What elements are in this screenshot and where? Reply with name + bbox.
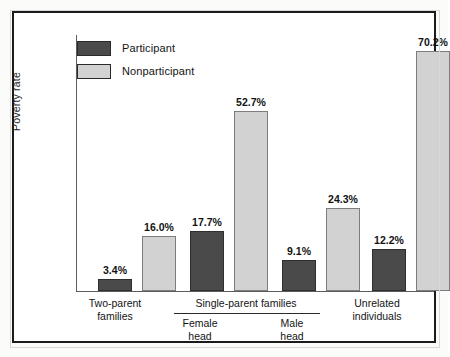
bar-nonparticipant-two-parent[interactable] — [142, 236, 176, 291]
plot-area: 3.4% 16.0% 17.7% 52.7% 9.1% 2 — [76, 35, 434, 291]
bar-wrap-24-3: 24.3% — [326, 35, 360, 291]
bar-label-12-2: 12.2% — [374, 234, 404, 246]
bar-wrap-9-1: 9.1% — [282, 35, 316, 291]
bar-label-70-2: 70.2% — [418, 36, 448, 48]
bar-wrap-52-7: 52.7% — [234, 35, 268, 291]
bar-participant-male-head[interactable] — [282, 260, 316, 291]
chart-frame: Poverty rate Participant Nonparticipant … — [12, 11, 436, 343]
xlabel-unrelated: Unrelated individuals — [322, 297, 432, 323]
bar-wrap-12-2: 12.2% — [372, 35, 406, 291]
xlabel-single-parent-text: Single-parent families — [166, 297, 326, 310]
bar-wrap-16-0: 16.0% — [142, 35, 176, 291]
bar-label-24-3: 24.3% — [328, 193, 358, 205]
single-parent-group-rule — [174, 313, 320, 314]
xlabel-female-head-line2: head — [160, 330, 240, 343]
xlabel-two-parent-line1: Two-parent — [60, 297, 170, 310]
bar-participant-female-head[interactable] — [190, 231, 224, 291]
x-axis-line — [76, 291, 434, 292]
bar-label-3-4: 3.4% — [103, 264, 127, 276]
bar-nonparticipant-male-head[interactable] — [326, 208, 360, 291]
bar-label-16-0: 16.0% — [144, 221, 174, 233]
bar-label-17-7: 17.7% — [192, 216, 222, 228]
bar-nonparticipant-female-head[interactable] — [234, 111, 268, 291]
bar-label-9-1: 9.1% — [287, 245, 311, 257]
xlabel-female-head: Female head — [160, 317, 240, 343]
bar-participant-unrelated[interactable] — [372, 249, 406, 291]
xlabel-two-parent-line2: families — [60, 310, 170, 323]
xlabel-two-parent: Two-parent families — [60, 297, 170, 323]
xlabel-male-head-line2: head — [252, 330, 332, 343]
xlabel-female-head-line1: Female — [160, 317, 240, 330]
xlabel-unrelated-line1: Unrelated — [322, 297, 432, 310]
xlabel-male-head-line1: Male — [252, 317, 332, 330]
y-axis-title: Poverty rate — [10, 11, 22, 131]
bar-nonparticipant-unrelated[interactable] — [416, 51, 450, 291]
xlabel-male-head: Male head — [252, 317, 332, 343]
bar-wrap-3-4: 3.4% — [98, 35, 132, 291]
bar-wrap-17-7: 17.7% — [190, 35, 224, 291]
xlabel-unrelated-line2: individuals — [322, 310, 432, 323]
bar-participant-two-parent[interactable] — [98, 279, 132, 291]
xlabel-single-parent: Single-parent families — [166, 297, 326, 310]
bar-wrap-70-2: 70.2% — [416, 35, 450, 291]
bar-label-52-7: 52.7% — [236, 96, 266, 108]
